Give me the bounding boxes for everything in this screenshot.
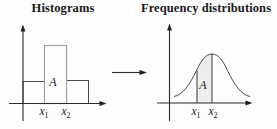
right-x-axis-arrowhead-icon — [246, 101, 253, 106]
left-y-axis-arrowhead-icon — [21, 25, 26, 32]
left-xtick-x1-sub: 1 — [45, 111, 49, 120]
area-label-right: A — [195, 79, 211, 92]
right-y-axis-arrowhead-icon — [167, 24, 172, 31]
transform-arrow-head-icon — [140, 70, 148, 75]
histogram-bar-right — [67, 81, 89, 104]
transform-arrow — [112, 70, 147, 75]
right-xtick-x2: x2 — [203, 105, 223, 118]
area-label-left: A — [45, 76, 61, 89]
right-xtick-x1-sub: 1 — [197, 111, 201, 120]
right-xtick-x2-sub: 2 — [214, 111, 218, 120]
left-xtick-x2: x2 — [56, 105, 76, 118]
left-xtick-x1: x1 — [34, 105, 54, 118]
left-x-axis-arrowhead-icon — [100, 101, 107, 106]
figure-histograms-to-frequency-distributions: Histograms Frequency distributions — [0, 0, 277, 129]
histogram-bar-left — [23, 82, 45, 104]
left-xtick-x2-sub: 2 — [67, 111, 71, 120]
